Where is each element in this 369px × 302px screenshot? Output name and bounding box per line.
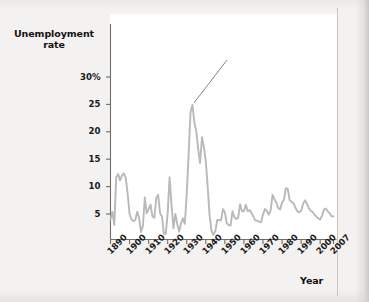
y-tick-label-30: 30% <box>67 72 101 82</box>
plot-canvas <box>0 0 369 302</box>
y-tick-label-25: 25 <box>67 99 101 109</box>
y-tick-label-15: 15 <box>67 154 101 164</box>
unemployment-rate-chart-figure: Unemployment rate Year Great Depression … <box>0 0 369 302</box>
y-tick-label-10: 10 <box>67 181 101 191</box>
y-tick-label-20: 20 <box>67 126 101 136</box>
y-tick-label-5: 5 <box>67 209 101 219</box>
